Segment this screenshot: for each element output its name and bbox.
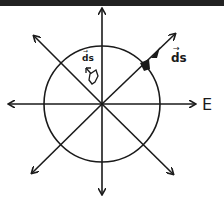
ds-label-inner: ds <box>82 53 94 63</box>
field-lines <box>9 9 195 194</box>
ds-label-outer: ds <box>171 51 187 65</box>
top-border-bar <box>0 0 224 6</box>
inner-surface-element <box>86 68 98 84</box>
field-line-up-right <box>102 34 175 104</box>
field-line-down-right <box>102 104 173 174</box>
field-line-down-left <box>32 104 102 173</box>
flux-diagram: E → ds → ds <box>0 0 224 204</box>
field-label-e: E <box>202 95 212 114</box>
